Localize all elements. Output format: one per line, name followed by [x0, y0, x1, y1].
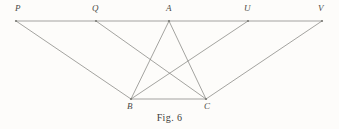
geometry-figure-page: PQAUVBC Fig. 6	[0, 0, 339, 129]
figure-caption: Fig. 6	[0, 112, 339, 123]
vertex-label-b: B	[127, 102, 133, 111]
vertex-label-q: Q	[92, 4, 99, 13]
vertex-dot-group	[15, 20, 323, 100]
vertex-dot-v	[321, 20, 323, 22]
geometry-diagram	[0, 0, 339, 129]
vertex-label-a: A	[166, 4, 172, 13]
vertex-label-c: C	[204, 102, 210, 111]
line-A-C-triangle-side	[169, 21, 206, 99]
vertex-label-p: P	[15, 4, 21, 13]
line-A-B-triangle-side	[131, 21, 169, 99]
segment-group	[16, 21, 322, 99]
vertex-dot-b	[130, 98, 132, 100]
vertex-dot-q	[95, 20, 97, 22]
vertex-label-v: V	[318, 4, 324, 13]
vertex-dot-u	[247, 20, 249, 22]
vertex-dot-a	[168, 20, 170, 22]
line-V-C	[206, 21, 322, 99]
vertex-label-u: U	[244, 4, 251, 13]
vertex-dot-c	[205, 98, 207, 100]
vertex-dot-p	[15, 20, 17, 22]
line-P-B	[16, 21, 131, 99]
